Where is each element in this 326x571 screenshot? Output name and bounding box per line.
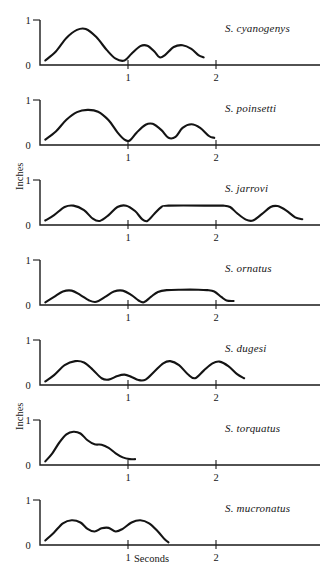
svg-text:0: 0 xyxy=(25,140,30,151)
waveform-panel: 1012S. jarrovi xyxy=(0,163,326,243)
waveform-panel: 1012S. dugesi xyxy=(0,323,326,403)
species-label: S. jarrovi xyxy=(225,182,268,194)
axes: 1012 xyxy=(25,335,320,403)
svg-text:2: 2 xyxy=(213,552,218,563)
svg-text:2: 2 xyxy=(213,312,218,323)
species-label: S. dugesi xyxy=(225,342,267,354)
species-label: S. ornatus xyxy=(225,262,272,274)
svg-text:0: 0 xyxy=(25,220,30,231)
panel-plot: 1012 xyxy=(0,83,326,163)
waveform-panel: 1012S. poinsetti xyxy=(0,83,326,163)
panel-plot: 1012 xyxy=(0,3,326,83)
waveform-panel: 1012S. mucronatus xyxy=(0,483,326,563)
svg-text:1: 1 xyxy=(25,335,30,346)
panel-plot: 1012 xyxy=(0,243,326,323)
waveform-panel: 1012S. ornatus xyxy=(0,243,326,323)
svg-text:0: 0 xyxy=(25,540,30,551)
species-waveform-figure: Inches Inches Seconds 1012S. cyanogenys1… xyxy=(0,0,326,571)
species-label: S. mucronatus xyxy=(225,502,290,514)
svg-text:1: 1 xyxy=(25,495,30,506)
svg-text:1: 1 xyxy=(25,95,30,106)
svg-text:2: 2 xyxy=(213,232,218,243)
svg-text:1: 1 xyxy=(125,152,130,163)
svg-text:1: 1 xyxy=(25,415,30,426)
species-label: S. torquatus xyxy=(225,422,280,434)
waveform-trace xyxy=(45,432,135,462)
svg-text:2: 2 xyxy=(213,392,218,403)
panel-plot: 1012 xyxy=(0,403,326,483)
svg-text:2: 2 xyxy=(213,72,218,83)
waveform-panel: 1012S. cyanogenys xyxy=(0,3,326,83)
waveform-trace xyxy=(45,290,233,303)
waveform-trace xyxy=(45,361,244,381)
waveform-trace xyxy=(45,28,203,60)
panel-plot: 1012 xyxy=(0,163,326,243)
svg-text:0: 0 xyxy=(25,380,30,391)
axes: 1012 xyxy=(25,175,320,243)
panel-plot: 1012 xyxy=(0,323,326,403)
svg-text:1: 1 xyxy=(125,72,130,83)
svg-text:0: 0 xyxy=(25,460,30,471)
species-label: S. cyanogenys xyxy=(225,22,290,34)
svg-text:1: 1 xyxy=(125,232,130,243)
svg-text:1: 1 xyxy=(125,472,130,483)
svg-text:1: 1 xyxy=(25,255,30,266)
waveform-trace xyxy=(45,520,168,542)
svg-text:1: 1 xyxy=(125,312,130,323)
svg-text:0: 0 xyxy=(25,300,30,311)
panel-plot: 1012 xyxy=(0,483,326,563)
waveform-panel: 1012S. torquatus xyxy=(0,403,326,483)
svg-text:1: 1 xyxy=(125,552,130,563)
svg-text:2: 2 xyxy=(213,472,218,483)
waveform-trace xyxy=(45,205,302,221)
svg-text:1: 1 xyxy=(125,392,130,403)
svg-text:0: 0 xyxy=(25,60,30,71)
svg-text:2: 2 xyxy=(213,152,218,163)
waveform-trace xyxy=(45,110,214,141)
svg-text:1: 1 xyxy=(25,175,30,186)
species-label: S. poinsetti xyxy=(225,102,276,114)
svg-text:1: 1 xyxy=(25,15,30,26)
